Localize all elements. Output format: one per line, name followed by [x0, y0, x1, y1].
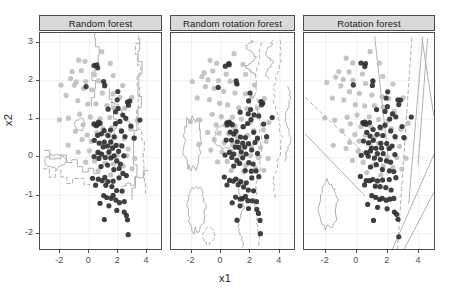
decision-boundary-line: [44, 150, 99, 173]
x-tick-mark: [249, 250, 250, 253]
decision-boundary-group: [44, 33, 148, 199]
facet-strip-label: Rotation forest: [337, 18, 400, 29]
facet-strip-label: Random forest: [69, 18, 133, 29]
x-tick-mark: [220, 250, 221, 253]
decision-boundary-line: [122, 171, 148, 186]
plot-panel-panel-random-forest: [39, 32, 162, 250]
x-tick-mark: [418, 250, 419, 253]
x-tick-label: -2: [311, 255, 339, 265]
decision-boundary-line: [44, 154, 67, 169]
decision-boundary-line: [418, 39, 427, 165]
y-tick-label: -2: [9, 227, 33, 237]
x-tick-mark: [191, 250, 192, 253]
x-tick-label: 0: [206, 255, 234, 265]
x-tick-label: 0: [342, 255, 370, 265]
x-tick-label: -2: [177, 255, 205, 265]
x-tick-mark: [88, 250, 89, 253]
facet-strip-panel-random-rotation-forest: Random rotation forest: [170, 15, 295, 31]
x-tick-mark: [325, 250, 326, 253]
scatter-plot-figure: x2 x1 -2-10123 -2024-2024-2024 Random fo…: [0, 0, 450, 291]
x-tick-label: 2: [373, 255, 401, 265]
x-tick-label: 4: [404, 255, 432, 265]
decision-boundary-line: [203, 227, 216, 246]
x-tick-mark: [146, 250, 147, 253]
decision-boundary-line: [285, 87, 291, 162]
y-tick-label: 0: [9, 150, 33, 160]
x-tick-label: 0: [74, 255, 102, 265]
x-tick-label: 4: [132, 255, 160, 265]
x-tick-label: 2: [235, 255, 263, 265]
x-tick-mark: [59, 250, 60, 253]
x-tick-label: 4: [265, 255, 293, 265]
y-tick-label: -1: [9, 189, 33, 199]
facet-strip-panel-rotation-forest: Rotation forest: [303, 15, 435, 31]
plot-panel-panel-rotation-forest: [303, 32, 435, 250]
x-tick-mark: [279, 250, 280, 253]
facet-strip-label: Random rotation forest: [183, 18, 282, 29]
x-tick-mark: [387, 250, 388, 253]
decision-boundary-line: [318, 179, 338, 231]
y-tick-label: 2: [9, 74, 33, 84]
facet-strip-panel-random-forest: Random forest: [39, 15, 162, 31]
plot-panel-panel-random-rotation-forest: [170, 32, 295, 250]
x-tick-mark: [117, 250, 118, 253]
x-tick-mark: [356, 250, 357, 253]
x-tick-label: -2: [45, 255, 73, 265]
decision-boundary-line: [409, 37, 423, 203]
y-tick-label: 1: [9, 112, 33, 122]
points-class-light: [188, 51, 272, 174]
decision-boundary-line: [265, 41, 274, 79]
x-tick-label: 2: [103, 255, 131, 265]
decision-boundary-line: [187, 186, 207, 234]
decision-boundary-line: [422, 39, 434, 116]
x-axis-label: x1: [0, 272, 450, 284]
decision-boundary-line: [398, 37, 412, 249]
y-tick-label: 3: [9, 36, 33, 46]
